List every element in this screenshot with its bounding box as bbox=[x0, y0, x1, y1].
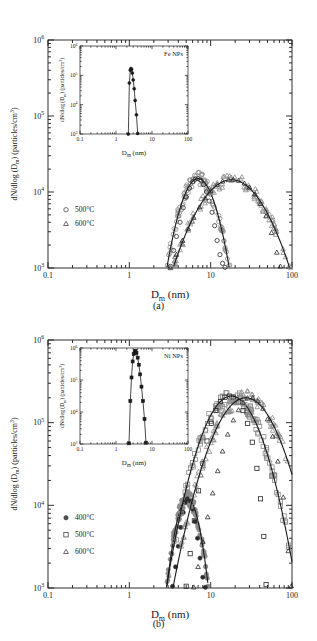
figure-panel-a: 0.1110100103104105106Dm (nm)dN/dlog (Dm)… bbox=[0, 0, 317, 320]
data-point-marker bbox=[135, 351, 138, 354]
x-tick-label: 100 bbox=[184, 446, 193, 452]
panel-a-inset-plot: 0.1110100103104105106Dm (nm)dN/dlog (Dm)… bbox=[0, 0, 317, 320]
plot-data-series bbox=[128, 350, 148, 445]
data-point-marker bbox=[136, 132, 139, 135]
y-tick-labels: 103104105106 bbox=[70, 344, 78, 447]
data-point-marker bbox=[131, 360, 134, 363]
data-point-marker bbox=[140, 385, 143, 388]
y-tick-label: 106 bbox=[70, 42, 78, 49]
data-point-marker bbox=[130, 68, 133, 71]
data-point-marker bbox=[129, 400, 132, 403]
data-point-marker bbox=[137, 363, 140, 366]
data-point-marker bbox=[132, 78, 135, 81]
panel-b-inset-plot: 0.1110100103104105106Dm (nm)dN/dlog (Dm)… bbox=[0, 320, 317, 641]
y-tick-labels: 103104105106 bbox=[70, 42, 78, 137]
data-point-marker bbox=[127, 133, 130, 136]
x-tick-labels: 0.1110100 bbox=[77, 446, 193, 452]
data-point-marker bbox=[139, 373, 142, 376]
x-tick-label: 0.1 bbox=[77, 136, 84, 142]
y-axis-title: dN/dlog (Dm) (particles/cm3) bbox=[58, 364, 67, 428]
inset-title: Ni NPs bbox=[164, 352, 183, 359]
data-point-marker bbox=[128, 81, 131, 84]
x-axis-title: Dm (nm) bbox=[122, 459, 147, 468]
y-tick-label: 105 bbox=[70, 71, 78, 78]
y-tick-label: 104 bbox=[70, 408, 78, 415]
y-axis-title: dN/dlog (Dm) (particles/cm3) bbox=[58, 58, 67, 122]
x-tick-label: 0.1 bbox=[77, 446, 84, 452]
series-1 bbox=[127, 67, 139, 135]
series-1 bbox=[128, 350, 148, 445]
data-point-marker bbox=[143, 418, 146, 421]
plot-data-series bbox=[127, 67, 139, 135]
data-point-marker bbox=[134, 99, 137, 102]
data-point-marker bbox=[130, 376, 133, 379]
inset-title: Fe NPs bbox=[164, 50, 183, 57]
data-point-marker bbox=[144, 441, 147, 444]
x-tick-label: 1 bbox=[115, 446, 118, 452]
x-tick-label: 10 bbox=[149, 136, 155, 142]
data-point-marker bbox=[128, 442, 131, 445]
x-tick-label: 10 bbox=[149, 446, 155, 452]
panel-b-caption: (b) bbox=[0, 618, 317, 629]
data-point-marker bbox=[136, 356, 139, 359]
panel-a-caption: (a) bbox=[0, 300, 317, 311]
x-tick-labels: 0.1110100 bbox=[77, 136, 193, 142]
y-tick-label: 104 bbox=[70, 100, 78, 107]
data-point-marker bbox=[133, 87, 136, 90]
data-point-marker bbox=[141, 400, 144, 403]
x-axis-title: Dm (nm) bbox=[122, 149, 147, 158]
data-point-marker bbox=[135, 113, 138, 116]
x-tick-label: 100 bbox=[184, 136, 193, 142]
x-tick-label: 1 bbox=[115, 136, 118, 142]
y-tick-label: 106 bbox=[70, 344, 78, 351]
figure-panel-b: 0.1110100103104105106Dm (nm)dN/dlog (Dm)… bbox=[0, 320, 317, 640]
data-point-marker bbox=[131, 72, 134, 75]
y-tick-label: 105 bbox=[70, 376, 78, 383]
